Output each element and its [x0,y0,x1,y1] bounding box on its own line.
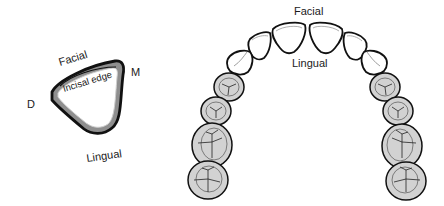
distal-label: D [27,98,35,110]
central-incisor-left [272,23,305,54]
facial-label-left: Facial [57,48,89,68]
second-molar-right [386,162,426,200]
second-molar-left [188,161,228,199]
lingual-label-left: Lingual [86,147,123,164]
first-molar-right [382,124,422,168]
figure-canvas: Incisal edge Facial M D Lingual Facial L… [0,0,444,206]
first-molar-left [192,123,232,167]
canine-left [227,51,252,75]
facial-label-arch: Facial [294,5,323,17]
second-premolar-right [383,97,413,125]
mesial-label: M [131,66,140,78]
dental-arch: Facial Lingual [188,5,426,200]
second-premolar-left [201,97,231,125]
lingual-label-arch: Lingual [292,57,327,69]
incisor-cross-section: Incisal edge Facial M D Lingual [27,48,140,164]
figure: Incisal edge Facial M D Lingual Facial L… [0,0,444,206]
canine-right [362,51,387,75]
central-incisor-right [310,23,343,54]
